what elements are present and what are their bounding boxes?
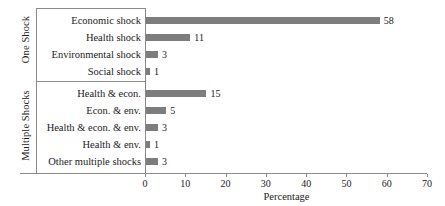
bar-row: Social shock1 — [0, 64, 445, 80]
category-label: Economic shock — [38, 14, 141, 28]
x-tick-label: 60 — [372, 177, 402, 190]
bar — [146, 68, 150, 75]
x-tick-label: 10 — [170, 177, 200, 190]
bar-value-label: 11 — [194, 31, 204, 45]
x-axis-line — [20, 173, 427, 174]
bar-row: Health & econ.15 — [0, 86, 445, 102]
category-label: Environmental shock — [38, 48, 141, 62]
bar — [146, 90, 206, 97]
category-label: Health shock — [38, 31, 141, 45]
panel-group-divider — [36, 81, 145, 82]
bar-value-label: 3 — [162, 48, 167, 62]
bar — [146, 107, 166, 114]
x-tick-label: 40 — [291, 177, 321, 190]
bar-row: Econ. & env.5 — [0, 103, 445, 119]
bar-value-label: 58 — [384, 14, 394, 28]
bar-value-label: 1 — [154, 65, 159, 79]
bar-value-label: 5 — [170, 104, 175, 118]
x-tick-label: 20 — [211, 177, 241, 190]
bar-row: Health shock11 — [0, 30, 445, 46]
x-tick-label: 0 — [130, 177, 160, 190]
x-axis-title: Percentage — [145, 190, 428, 203]
bar — [146, 34, 190, 41]
bar-value-label: 3 — [162, 121, 167, 135]
bar-chart: One Shock Multiple Shocks Economic shock… — [0, 0, 445, 206]
category-label: Health & env. — [38, 138, 141, 152]
bar-value-label: 1 — [154, 138, 159, 152]
bar — [146, 141, 150, 148]
bar-row: Health & env.1 — [0, 137, 445, 153]
x-tick-label: 50 — [331, 177, 361, 190]
bar-row: Other multiple shocks3 — [0, 154, 445, 170]
x-tick-label: 30 — [251, 177, 281, 190]
category-label: Social shock — [38, 65, 141, 79]
bar — [146, 17, 380, 24]
category-label: Econ. & env. — [38, 104, 141, 118]
panel-top-border — [36, 8, 145, 9]
bar — [146, 124, 158, 131]
bar-row: Economic shock58 — [0, 13, 445, 29]
category-label: Health & econ. & env. — [38, 121, 141, 135]
x-tick-label: 70 — [412, 177, 442, 190]
bar — [146, 158, 158, 165]
category-label: Other multiple shocks — [38, 155, 141, 169]
category-label: Health & econ. — [38, 87, 141, 101]
bar-value-label: 15 — [210, 87, 220, 101]
bar-row: Environmental shock3 — [0, 47, 445, 63]
bar-row: Health & econ. & env.3 — [0, 120, 445, 136]
bar-value-label: 3 — [162, 155, 167, 169]
bar — [146, 51, 158, 58]
